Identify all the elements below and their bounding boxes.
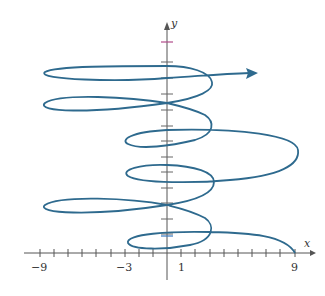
figure: y x −9 −3 1 9	[0, 0, 325, 296]
x-axis-label: x	[304, 237, 310, 250]
x-tick-label-neg9: −9	[31, 261, 47, 274]
plot-canvas	[0, 0, 325, 296]
x-tick-label-1: 1	[178, 261, 185, 274]
x-tick-label-neg3: −3	[116, 261, 132, 274]
x-axis-arrow-icon	[310, 250, 316, 256]
y-axis-label: y	[171, 17, 177, 30]
y-axis-arrow-icon	[164, 22, 170, 30]
x-tick-label-9: 9	[291, 261, 298, 274]
